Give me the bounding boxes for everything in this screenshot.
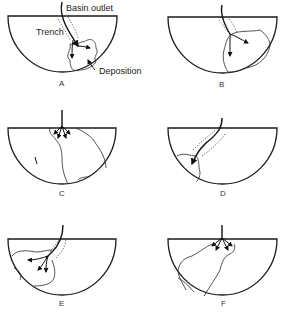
panel-d: D [168,118,277,198]
flow-branch-right [230,34,248,43]
trench-hatch-right [229,19,237,32]
panel-label: B [219,80,224,89]
deposition-label: Deposition [99,66,142,76]
basin-outline [8,239,116,295]
basin-outline [168,17,277,73]
panel-b: B [168,5,277,89]
trench-hatch-right [68,17,78,38]
flow-branch-right [78,46,90,48]
trench-label: Trench [36,27,64,37]
basin-outline [8,16,117,72]
trench-hatch-left [193,130,216,150]
panel-a: Basin outlet Trench Deposition A [8,2,142,88]
basin-outlet-label: Basin outlet [66,3,114,13]
panel-label: A [59,79,65,88]
panel-label: E [59,299,64,308]
basin-outline [168,128,277,184]
mark [35,157,37,164]
deposition-diagram: Basin outlet Trench Deposition A B C D [0,0,288,317]
panel-label: D [220,189,226,198]
panel-c: C [8,110,116,198]
panel-f: F [168,225,277,308]
trench-hatch-right [56,238,66,258]
panel-label: C [59,189,65,198]
flow-branch-down [72,40,73,58]
panel-label: F [221,299,226,308]
deposition-area [178,244,235,296]
flow-branch-1 [28,256,48,260]
panel-e: E [8,225,116,308]
